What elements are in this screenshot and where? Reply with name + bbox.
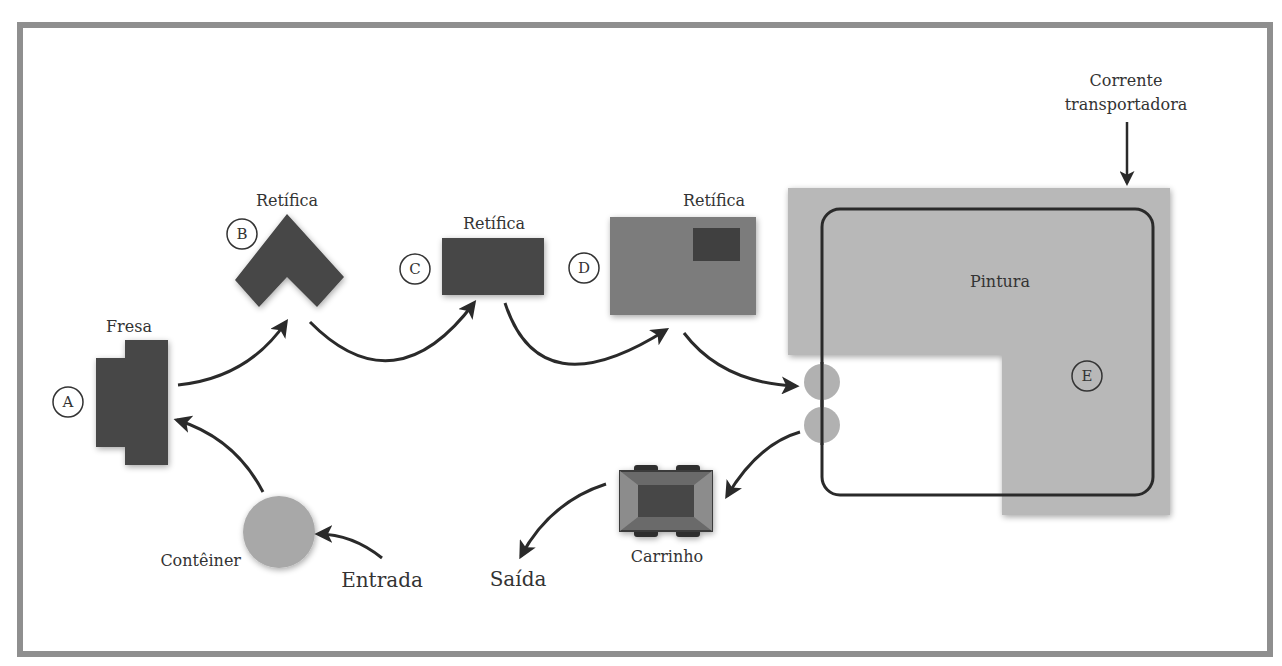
cart-vehicle: [620, 465, 712, 537]
arrow-d-to-painting: [684, 333, 796, 386]
svg-text:B: B: [236, 225, 247, 243]
arrow-entry-to-container: [318, 534, 382, 558]
arrow-cart-to-exit: [521, 484, 606, 556]
exit-label: Saída: [490, 567, 547, 591]
marker-d: D: [569, 253, 599, 283]
painting-label: Pintura: [970, 272, 1031, 291]
process-layout-diagram: Pintura E Corrente transportadora Fresa …: [0, 0, 1282, 666]
container-bin: [243, 496, 315, 568]
arrow-fresa-to-b: [178, 322, 286, 385]
fresa-label: Fresa: [106, 317, 152, 336]
arrow-painting-to-cart: [727, 432, 800, 496]
conveyor-label-line2: transportadora: [1065, 95, 1188, 114]
cart-label: Carrinho: [631, 547, 703, 566]
svg-text:A: A: [62, 393, 74, 411]
arrow-container-to-fresa: [177, 420, 263, 492]
retifica-c-machine: [442, 238, 544, 295]
marker-a: A: [53, 387, 83, 417]
marker-c: C: [400, 254, 430, 284]
retifica-c-label: Retífica: [463, 214, 526, 233]
entry-label: Entrada: [341, 568, 423, 592]
svg-text:E: E: [1082, 367, 1093, 385]
svg-text:D: D: [578, 259, 590, 277]
fresa-machine: [96, 340, 168, 465]
arrow-b-to-c: [310, 303, 474, 361]
marker-b: B: [227, 219, 257, 249]
container-label: Contêiner: [160, 551, 241, 570]
retifica-b-label: Retífica: [256, 191, 319, 210]
retifica-b-machine: [235, 214, 344, 307]
conveyor-label-line1: Corrente: [1090, 71, 1163, 90]
retifica-d-machine: [610, 217, 756, 315]
painting-area: [788, 188, 1170, 515]
svg-text:C: C: [409, 260, 420, 278]
retifica-d-label: Retífica: [683, 191, 746, 210]
